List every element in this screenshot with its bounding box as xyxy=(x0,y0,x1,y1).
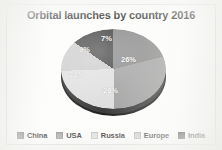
legend-label: Europe xyxy=(144,131,169,140)
legend-swatch-icon xyxy=(56,132,63,139)
pie-top-face xyxy=(61,29,166,109)
slice-label-india: 7% xyxy=(101,34,112,43)
legend-item-india[interactable]: India xyxy=(178,131,205,140)
legend-label: USA xyxy=(66,131,82,140)
chart-legend: ChinaUSARussiaEuropeIndia xyxy=(10,129,212,141)
slice-label-usa: 26% xyxy=(103,86,118,95)
legend-swatch-icon xyxy=(178,132,185,139)
legend-label: Russia xyxy=(101,131,125,140)
legend-swatch-icon xyxy=(134,132,141,139)
legend-item-europe[interactable]: Europe xyxy=(134,131,169,140)
chart-figure: Orbital launches by country 2016 26% 26%… xyxy=(0,0,222,150)
legend-item-china[interactable]: China xyxy=(17,131,47,140)
pie-chart: 26% 26% 22% 9% 7% xyxy=(61,28,166,122)
pie-slices xyxy=(61,29,166,109)
slice-label-europe: 9% xyxy=(79,45,90,54)
slice-label-russia: 22% xyxy=(69,70,84,79)
slice-label-china: 26% xyxy=(121,55,136,64)
chart-title: Orbital launches by country 2016 xyxy=(0,9,222,22)
legend-item-usa[interactable]: USA xyxy=(56,131,82,140)
legend-swatch-icon xyxy=(91,132,98,139)
legend-item-russia[interactable]: Russia xyxy=(91,131,125,140)
legend-label: China xyxy=(27,131,47,140)
legend-swatch-icon xyxy=(17,132,24,139)
legend-label: India xyxy=(188,131,205,140)
